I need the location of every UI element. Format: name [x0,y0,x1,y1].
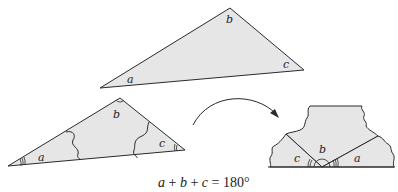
rearranged-angle-a-label: a [354,152,361,165]
top-angle-a-label: a [127,73,134,86]
angle-sum-equation: a + b + c = 180° [158,175,250,190]
top-triangle: b c a [100,8,304,88]
cut-angle-c-label: c [159,137,165,150]
cut-triangle: b a c [8,98,185,166]
rearranged-angle-b-label: b [319,143,326,156]
top-angle-c-label: c [283,58,289,71]
rearranged-angle-c-label: c [294,152,300,165]
cut-angle-b-label: b [113,108,120,121]
top-angle-b-label: b [226,13,233,26]
rearranged-pieces: c b a [268,106,395,167]
rearrange-arrow [193,99,279,125]
cut-angle-a-label: a [38,151,45,164]
